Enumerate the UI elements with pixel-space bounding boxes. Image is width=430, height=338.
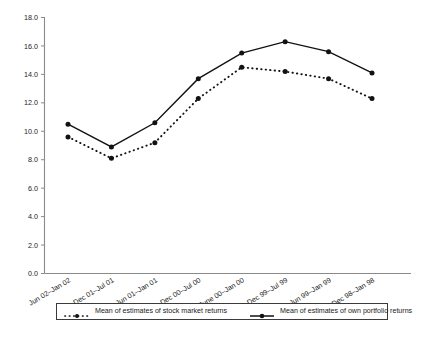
y-tick-label: 6.0	[28, 184, 38, 193]
data-point-marker	[326, 49, 331, 54]
y-tick-label: 14.0	[24, 70, 38, 79]
data-point-marker	[109, 156, 114, 161]
y-tick-label: 0.0	[28, 269, 38, 278]
legend-swatch-solid-icon	[249, 307, 275, 317]
data-point-marker	[196, 76, 201, 81]
data-point-marker	[370, 96, 375, 101]
data-point-marker	[152, 120, 157, 125]
data-point-marker	[66, 122, 71, 127]
data-point-marker	[239, 65, 244, 70]
data-point-marker	[196, 96, 201, 101]
chart-figure: 0.02.04.06.08.010.012.014.016.018.0 Jun …	[0, 0, 430, 338]
data-point-marker	[326, 76, 331, 81]
data-point-marker	[283, 69, 288, 74]
y-tick-label: 4.0	[28, 212, 38, 221]
series-line-solid	[68, 42, 372, 147]
series-line-dotted	[68, 67, 372, 158]
legend-label-own-portfolio: Mean of estimates of own portfolio retur…	[280, 308, 412, 315]
y-tick-label: 12.0	[24, 98, 38, 107]
chart-legend: Mean of estimates of stock market return…	[56, 303, 388, 320]
legend-label-stock-market: Mean of estimates of stock market return…	[95, 308, 227, 315]
chart-series-group	[66, 39, 375, 161]
y-tick-label: 16.0	[24, 42, 38, 51]
legend-entry-own-portfolio: Mean of estimates of own portfolio retur…	[249, 304, 412, 319]
data-point-marker	[66, 134, 71, 139]
y-tick-group: 0.02.04.06.08.010.012.014.016.018.0	[24, 13, 45, 278]
chart-plot-area: 0.02.04.06.08.010.012.014.016.018.0 Jun …	[0, 0, 430, 338]
data-point-marker	[109, 144, 114, 149]
y-tick-label: 2.0	[28, 241, 38, 250]
y-tick-label: 10.0	[24, 127, 38, 136]
data-point-marker	[152, 140, 157, 145]
data-point-marker	[370, 70, 375, 75]
data-point-marker	[283, 39, 288, 44]
y-tick-label: 8.0	[28, 155, 38, 164]
legend-swatch-dotted-icon	[64, 307, 90, 317]
legend-entry-stock-market: Mean of estimates of stock market return…	[64, 304, 227, 319]
y-tick-label: 18.0	[24, 13, 38, 22]
data-point-marker	[239, 51, 244, 56]
chart-axes	[45, 17, 412, 274]
